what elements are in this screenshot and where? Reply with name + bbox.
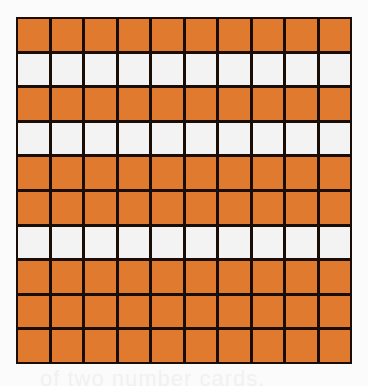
shaded-cell — [320, 157, 351, 189]
unshaded-cell — [119, 227, 150, 259]
shaded-cell — [52, 88, 83, 120]
shaded-cell — [186, 330, 217, 362]
shaded-cell — [18, 330, 49, 362]
shaded-cell — [320, 296, 351, 328]
shaded-cell — [119, 192, 150, 224]
shaded-cell — [85, 19, 116, 51]
unshaded-cell — [286, 123, 317, 155]
shaded-cell — [152, 192, 183, 224]
shaded-cell — [286, 19, 317, 51]
unshaded-cell — [52, 227, 83, 259]
shaded-cell — [320, 19, 351, 51]
unshaded-cell — [152, 123, 183, 155]
shaded-cell — [219, 157, 250, 189]
shaded-cell — [253, 261, 284, 293]
shaded-cell — [219, 19, 250, 51]
unshaded-cell — [253, 123, 284, 155]
shaded-cell — [253, 88, 284, 120]
shaded-cell — [320, 192, 351, 224]
shaded-cell — [52, 19, 83, 51]
unshaded-cell — [219, 123, 250, 155]
shaded-cell — [18, 19, 49, 51]
shaded-cell — [119, 88, 150, 120]
shaded-cell — [219, 88, 250, 120]
shaded-cell — [85, 296, 116, 328]
shaded-cell — [186, 192, 217, 224]
shaded-cell — [52, 157, 83, 189]
shaded-cell — [253, 192, 284, 224]
unshaded-cell — [85, 227, 116, 259]
shaded-cell — [186, 19, 217, 51]
unshaded-cell — [186, 54, 217, 86]
shaded-cell — [253, 157, 284, 189]
shaded-cell — [152, 261, 183, 293]
shaded-cell — [152, 330, 183, 362]
shaded-cell — [286, 296, 317, 328]
shaded-cell — [320, 330, 351, 362]
shaded-cell — [286, 88, 317, 120]
unshaded-cell — [52, 123, 83, 155]
shaded-cell — [18, 261, 49, 293]
unshaded-cell — [18, 227, 49, 259]
shaded-cell — [119, 330, 150, 362]
unshaded-cell — [320, 54, 351, 86]
unshaded-cell — [52, 54, 83, 86]
shaded-cell — [85, 88, 116, 120]
shaded-cell — [18, 296, 49, 328]
shaded-cell — [219, 192, 250, 224]
unshaded-cell — [286, 227, 317, 259]
hundred-grid — [16, 17, 352, 364]
shaded-cell — [52, 261, 83, 293]
shaded-cell — [320, 88, 351, 120]
shaded-cell — [286, 330, 317, 362]
shaded-cell — [253, 19, 284, 51]
unshaded-cell — [286, 54, 317, 86]
shaded-cell — [320, 261, 351, 293]
bleed-through-text: of two number cards. — [40, 366, 340, 386]
unshaded-cell — [253, 54, 284, 86]
shaded-cell — [18, 157, 49, 189]
unshaded-cell — [18, 54, 49, 86]
shaded-cell — [219, 330, 250, 362]
shaded-cell — [52, 330, 83, 362]
shaded-cell — [85, 192, 116, 224]
unshaded-cell — [186, 227, 217, 259]
shaded-cell — [85, 261, 116, 293]
unshaded-cell — [219, 227, 250, 259]
shaded-cell — [152, 19, 183, 51]
unshaded-cell — [152, 227, 183, 259]
unshaded-cell — [119, 54, 150, 86]
shaded-cell — [152, 88, 183, 120]
unshaded-cell — [85, 123, 116, 155]
unshaded-cell — [152, 54, 183, 86]
shaded-cell — [286, 192, 317, 224]
shaded-cell — [119, 19, 150, 51]
shaded-cell — [18, 192, 49, 224]
unshaded-cell — [253, 227, 284, 259]
shaded-cell — [186, 157, 217, 189]
shaded-cell — [253, 330, 284, 362]
unshaded-cell — [18, 123, 49, 155]
shaded-cell — [52, 296, 83, 328]
unshaded-cell — [119, 123, 150, 155]
shaded-cell — [152, 157, 183, 189]
shaded-cell — [18, 88, 49, 120]
unshaded-cell — [85, 54, 116, 86]
unshaded-cell — [320, 227, 351, 259]
shaded-cell — [186, 261, 217, 293]
shaded-cell — [119, 296, 150, 328]
shaded-cell — [286, 157, 317, 189]
shaded-cell — [85, 330, 116, 362]
shaded-cell — [219, 296, 250, 328]
unshaded-cell — [320, 123, 351, 155]
shaded-cell — [119, 157, 150, 189]
shaded-cell — [253, 296, 284, 328]
shaded-cell — [85, 157, 116, 189]
shaded-cell — [152, 296, 183, 328]
shaded-cell — [186, 296, 217, 328]
shaded-cell — [119, 261, 150, 293]
shaded-cell — [186, 88, 217, 120]
shaded-cell — [219, 261, 250, 293]
shaded-cell — [286, 261, 317, 293]
unshaded-cell — [186, 123, 217, 155]
